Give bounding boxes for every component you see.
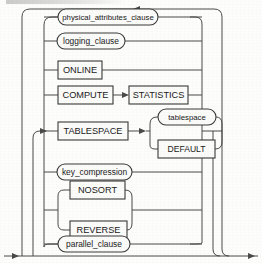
row-key-compression[interactable]: key_compression	[44, 164, 202, 180]
tablespace-default-label: DEFAULT	[167, 144, 206, 154]
tablespace-keyword-label: TABLESPACE	[64, 126, 123, 136]
key-compression-label: key_compression	[62, 167, 128, 177]
bottom-exit-arrow-icon	[248, 253, 255, 259]
compute-label: COMPUTE	[63, 90, 109, 100]
reverse-exit-curve	[127, 210, 132, 230]
compute-link-arrow-icon	[122, 92, 129, 98]
row-compute-statistics[interactable]: COMPUTE STATISTICS	[44, 86, 202, 104]
nosort-label: NOSORT	[78, 185, 118, 195]
nosort-exit-curve	[125, 190, 132, 210]
logging-clause-label: logging_clause	[63, 36, 119, 46]
tablespace-default-exit-curve	[215, 131, 222, 149]
tablespace-split-arrow-icon	[139, 128, 146, 134]
row1-exit-curve	[190, 17, 202, 24]
physical-attributes-clause-label: physical_attributes_clause	[62, 13, 153, 22]
reverse-label: REVERSE	[77, 225, 121, 235]
row-online[interactable]: ONLINE	[44, 61, 202, 79]
tablespace-name-exit-curve	[216, 117, 222, 131]
statistics-label: STATISTICS	[133, 90, 185, 100]
railroad-diagram: physical_attributes_clause logging_claus…	[0, 0, 262, 263]
bottom-entry-arrow-icon	[12, 253, 19, 259]
row-parallel-clause[interactable]: parallel_clause	[44, 236, 202, 252]
tablespace-name-label: tablespace	[168, 113, 206, 122]
reverse-entry-curve	[58, 224, 70, 230]
online-label: ONLINE	[63, 65, 97, 75]
parallel-clause-label: parallel_clause	[66, 239, 122, 249]
row-tablespace[interactable]: TABLESPACE tablespace DEFAULT	[44, 109, 222, 158]
row-sort-choice-group[interactable]: NOSORT REVERSE	[44, 181, 202, 239]
row1-entry-curve	[44, 17, 58, 25]
row-logging-clause[interactable]: logging_clause	[44, 33, 202, 49]
nosort-entry-curve	[58, 190, 70, 196]
row-physical-attributes-clause[interactable]: physical_attributes_clause	[44, 9, 202, 25]
railroad-svg: physical_attributes_clause logging_claus…	[0, 0, 262, 263]
